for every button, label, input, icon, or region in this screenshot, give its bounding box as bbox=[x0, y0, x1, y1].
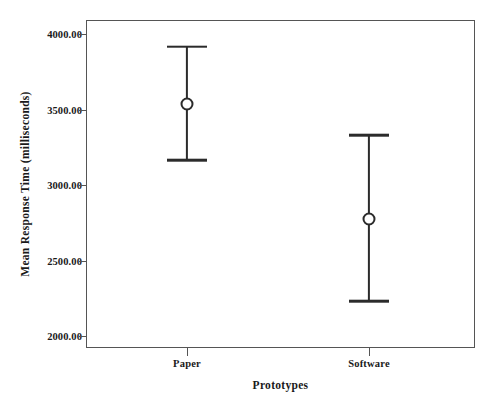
x-tick-label-software: Software bbox=[299, 358, 439, 369]
x-axis-title: Prototypes bbox=[86, 379, 475, 391]
x-tick-mark bbox=[369, 348, 370, 356]
y-tick-label: 4000.00 bbox=[10, 29, 82, 40]
errorbar-lower-cap-paper bbox=[167, 159, 207, 162]
x-tick-label-paper: Paper bbox=[117, 358, 257, 369]
x-tick-mark bbox=[187, 348, 188, 356]
mean-marker-software bbox=[363, 213, 376, 226]
y-tick-label: 2000.00 bbox=[10, 331, 82, 342]
errorbar-upper-cap-paper bbox=[167, 45, 207, 48]
y-tick-label: 3500.00 bbox=[10, 104, 82, 115]
mean-marker-paper bbox=[181, 97, 194, 110]
errorbar-lower-cap-software bbox=[349, 300, 389, 303]
y-tick-label: 3000.00 bbox=[10, 180, 82, 191]
plot-area bbox=[86, 20, 475, 348]
y-axis-tick-labels: 4000.00 3500.00 3000.00 2500.00 2000.00 bbox=[10, 0, 82, 411]
y-tick-label: 2500.00 bbox=[10, 255, 82, 266]
error-bar-chart: Mean Response Time (milliseconds) 4000.0… bbox=[0, 0, 496, 411]
errorbar-upper-cap-software bbox=[349, 134, 389, 137]
